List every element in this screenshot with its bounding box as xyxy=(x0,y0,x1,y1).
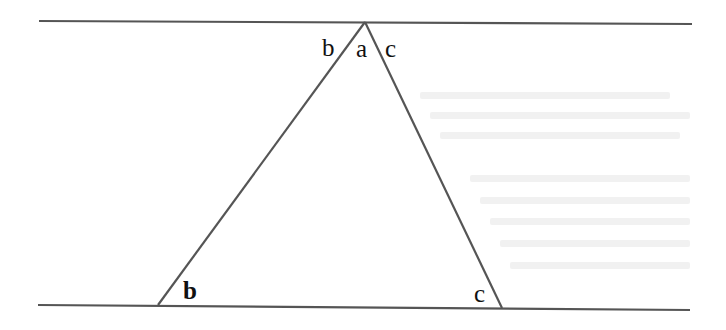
angle-label-bottom-right: c xyxy=(474,280,485,307)
angle-label-bottom-left: b xyxy=(183,277,197,304)
angle-label-apex-middle: a xyxy=(356,35,367,62)
bottom-parallel-line xyxy=(38,305,690,310)
diagram-svg: b a c b c xyxy=(0,0,726,330)
angle-label-apex-right: c xyxy=(385,35,396,62)
angle-label-apex-left: b xyxy=(322,34,335,61)
triangle-right-side xyxy=(365,22,502,308)
triangle-left-side xyxy=(158,22,365,305)
diagram-canvas: b a c b c xyxy=(0,0,726,330)
